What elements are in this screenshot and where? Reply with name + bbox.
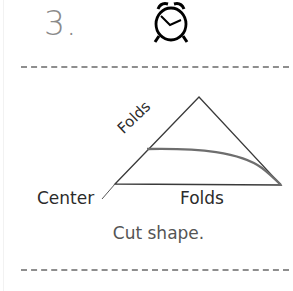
- caption-container: Cut shape.: [0, 223, 293, 243]
- caption-text: Cut shape.: [113, 223, 204, 243]
- cut-line: [147, 149, 281, 185]
- center-label: Center: [37, 188, 94, 208]
- bottom-dashed-divider: [21, 269, 289, 271]
- center-pointer-line: [102, 184, 115, 199]
- fold-diagram: [0, 0, 293, 291]
- folds-bottom-label: Folds: [180, 188, 224, 208]
